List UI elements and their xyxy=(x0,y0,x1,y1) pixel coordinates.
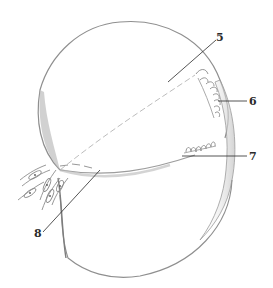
right-band xyxy=(200,80,235,240)
label-7: 7 xyxy=(249,151,257,162)
label-8: 8 xyxy=(34,228,42,239)
leader-5 xyxy=(168,40,216,82)
lower-lobe-outline xyxy=(60,180,232,277)
coil-structure-upper xyxy=(196,70,220,119)
label-6: 6 xyxy=(249,96,257,107)
lower-septum xyxy=(60,155,195,173)
leader-lines xyxy=(43,40,247,232)
leader-8 xyxy=(43,170,100,232)
upper-septum xyxy=(60,75,195,170)
illustration-drawing xyxy=(0,0,273,288)
cell-cluster xyxy=(18,164,92,210)
coil-structure-lower xyxy=(184,142,216,153)
label-5: 5 xyxy=(216,32,224,43)
diagram-figure: 5 6 7 8 xyxy=(0,0,273,288)
